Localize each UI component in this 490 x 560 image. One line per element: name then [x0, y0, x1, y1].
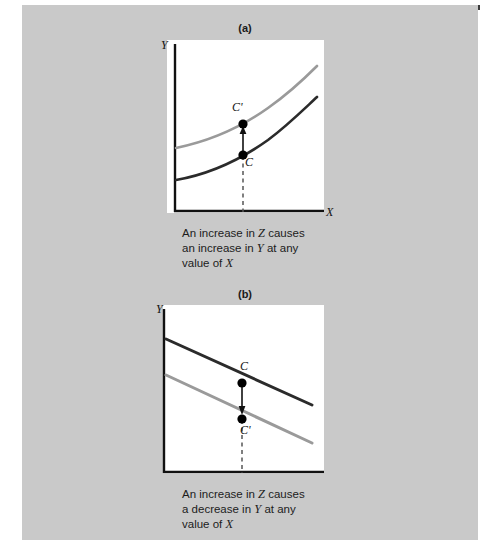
panel-a-point-c-label: C — [245, 155, 253, 170]
panel-a-point-c-prime-marker — [238, 119, 247, 128]
panel-a-caption-line-1: An increase in Z causes — [182, 226, 352, 241]
panel-b-caption: An increase in Z causes a decrease in Y … — [182, 487, 352, 532]
panel-a-caption-line-3: value of X — [182, 256, 352, 271]
panel-b: (b) Y X C C' An increase in Z causes a d… — [0, 285, 490, 560]
panel-b-caption-line-1: An increase in Z causes — [182, 487, 352, 502]
panel-a-point-c-prime-label: C' — [232, 100, 243, 115]
panel-a: (a) Y X C' C An increase in Z causes an … — [0, 0, 490, 285]
panel-b-caption-line-2: a decrease in Y at any — [182, 502, 352, 517]
panel-a-caption: An increase in Z causes an increase in Y… — [182, 226, 352, 271]
panel-a-shifted-curve — [176, 66, 317, 148]
panel-b-original-line — [166, 339, 312, 405]
panel-b-point-c-marker — [237, 378, 246, 387]
panel-a-caption-line-2: an increase in Y at any — [182, 241, 352, 256]
panel-b-point-c-label: C — [240, 359, 248, 374]
panel-b-caption-line-3: value of X — [182, 517, 352, 532]
panel-b-point-c-prime-label: C' — [240, 423, 251, 438]
